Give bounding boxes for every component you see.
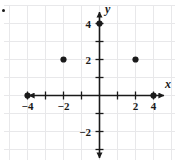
y-tick-label-neg2: −2 — [79, 126, 91, 138]
y-tick-label-pos2: 2 — [86, 54, 92, 66]
x-tick-label-neg4: −4 — [22, 100, 34, 112]
data-point — [150, 92, 156, 98]
data-point — [96, 20, 102, 26]
data-point — [24, 92, 30, 98]
x-tick-labels: −4 −2 2 4 — [22, 100, 157, 112]
x-tick-label-pos4: 4 — [151, 100, 157, 112]
y-axis-label: y — [103, 2, 111, 16]
coordinate-plane-figure: −4 −2 2 4 4 2 −2 x y — [0, 0, 175, 163]
data-point — [132, 56, 138, 62]
coordinate-plane-plot: −4 −2 2 4 4 2 −2 x y — [0, 0, 175, 163]
x-axis-label: x — [164, 77, 171, 91]
data-point — [60, 56, 66, 62]
x-tick-label-neg2: −2 — [58, 100, 70, 112]
x-tick-label-pos2: 2 — [133, 100, 139, 112]
y-tick-label-pos4: 4 — [86, 18, 92, 30]
